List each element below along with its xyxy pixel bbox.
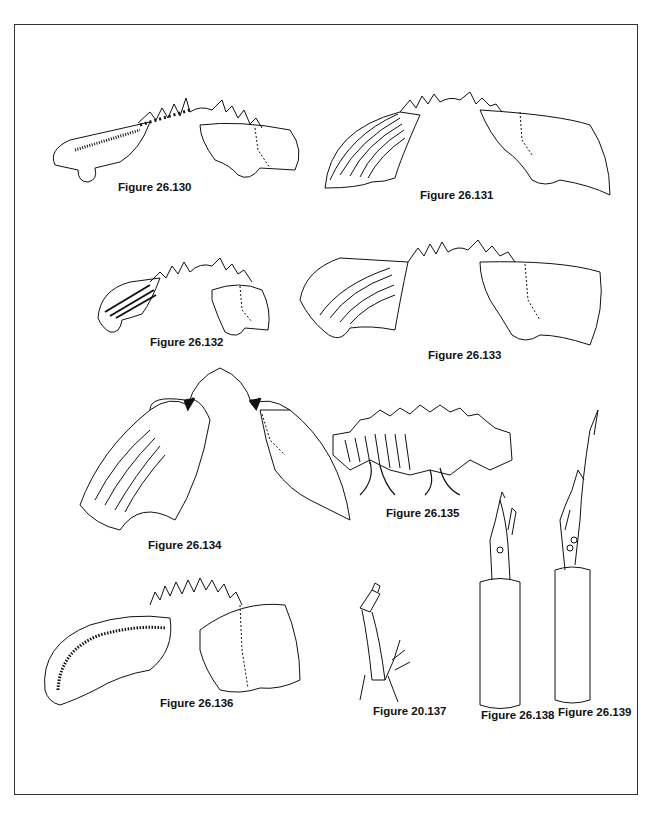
figure-label-133: Figure 26.133 [428,349,502,361]
fig-138-drawing [480,492,520,709]
fig-134-drawing [80,368,350,530]
figure-label-135: Figure 26.135 [386,507,460,519]
figure-label-139: Figure 26.139 [558,706,632,718]
fig-139-drawing [555,410,598,703]
figure-label-134: Figure 26.134 [148,539,222,551]
figure-plate-drawings [0,0,653,814]
fig-131-drawing [325,92,610,195]
fig-133-drawing [300,240,601,345]
fig-132-drawing [98,258,269,335]
figure-label-137: Figure 20.137 [373,705,447,717]
figure-label-138: Figure 26.138 [481,709,555,721]
fig-135-drawing [333,405,512,495]
fig-137-drawing [360,583,410,702]
figure-label-136: Figure 26.136 [160,697,234,709]
figure-label-130: Figure 26.130 [118,181,192,193]
fig-136-drawing [45,578,300,705]
fig-130-drawing [53,98,299,182]
figure-label-131: Figure 26.131 [420,189,494,201]
figure-label-132: Figure 26.132 [150,336,224,348]
